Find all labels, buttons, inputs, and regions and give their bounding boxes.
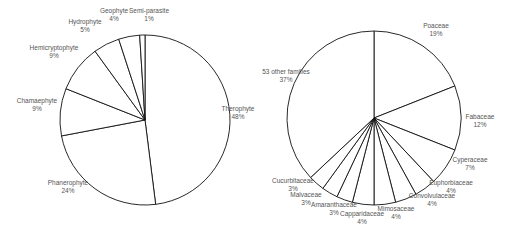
slice-percent: 4%: [409, 200, 455, 208]
slice-percent: 12%: [466, 121, 495, 129]
slice-label: Convolvulaceae4%: [409, 192, 455, 208]
slice-name: Semi-parasite: [129, 7, 169, 15]
slice-percent: 4%: [340, 218, 384, 226]
slice-label: Phanerophyte24%: [48, 179, 88, 195]
slice-name: Geophyte: [100, 7, 128, 15]
pie-slice: [145, 35, 230, 204]
slice-name: Convolvulaceae: [409, 192, 455, 200]
slice-percent: 3%: [290, 199, 321, 207]
slice-name: Chamaephyte: [17, 97, 57, 105]
slice-name: Poaceae: [423, 22, 449, 30]
slice-percent: 9%: [17, 105, 57, 113]
slice-label: Cucurbitaceae3%: [272, 177, 314, 193]
slice-name: 53 other families: [262, 68, 310, 76]
slice-label: Malvaceae3%: [290, 191, 321, 207]
slice-percent: 9%: [30, 52, 79, 60]
slice-percent: 1%: [129, 15, 169, 23]
slice-name: Therophyte: [222, 105, 255, 113]
slice-percent: 4%: [100, 15, 128, 23]
slice-label: Hydrophyte5%: [68, 18, 101, 34]
slice-name: Hemicryptophyte: [30, 44, 79, 52]
slice-label: Hemicryptophyte9%: [30, 44, 79, 60]
slice-percent: 5%: [68, 26, 101, 34]
slice-percent: 3%: [311, 209, 357, 217]
slice-percent: 24%: [48, 187, 88, 195]
slice-percent: 7%: [452, 164, 487, 172]
slice-name: Phanerophyte: [48, 179, 88, 187]
slice-name: Cucurbitaceae: [272, 177, 314, 185]
slice-label: Geophyte4%: [100, 7, 128, 23]
slice-name: Cyperaceae: [452, 156, 487, 164]
slice-label: Chamaephyte9%: [17, 97, 57, 113]
slice-percent: 37%: [262, 76, 310, 84]
slice-label: Poaceae19%: [423, 22, 449, 38]
slice-name: Hydrophyte: [68, 18, 101, 26]
slice-percent: 19%: [423, 30, 449, 38]
slice-percent: 3%: [272, 185, 314, 193]
slice-percent: 48%: [222, 113, 255, 121]
slice-label: Fabaceae12%: [466, 113, 495, 129]
slice-label: Therophyte48%: [222, 105, 255, 121]
slice-label: Cyperaceae7%: [452, 156, 487, 172]
slice-name: Fabaceae: [466, 113, 495, 121]
slice-label: 53 other families37%: [262, 68, 310, 84]
slice-label: Semi-parasite1%: [129, 7, 169, 23]
slice-name: Euphorbiaceae: [429, 179, 473, 187]
